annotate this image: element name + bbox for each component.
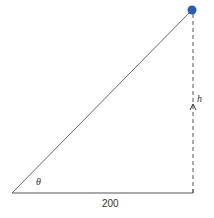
- triangle-diagram: [0, 0, 214, 218]
- ball: [188, 6, 197, 15]
- height-label: h: [197, 93, 202, 104]
- hypotenuse-line: [12, 11, 191, 193]
- base-length-label: 200: [102, 198, 119, 209]
- angle-theta-label: θ: [36, 176, 41, 187]
